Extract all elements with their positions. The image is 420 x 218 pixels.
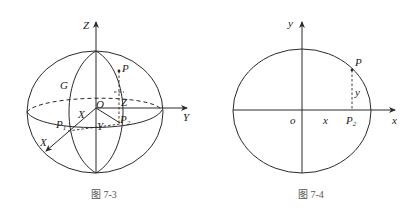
label-seg-z: Z xyxy=(121,96,128,108)
caption-fig-7-3: 图 7-3 xyxy=(91,189,117,200)
label-p2: P2 xyxy=(119,113,131,127)
label-x-axis: X xyxy=(39,136,48,148)
label-x-axis-2d: x xyxy=(391,114,397,126)
label-p1: P1 xyxy=(55,118,66,132)
label-seg-x: X xyxy=(77,108,86,120)
label-z-axis: Z xyxy=(83,19,90,31)
label-origin-2d: o xyxy=(290,114,296,126)
figure-7-4-ellipse: y x o x y P P2 图 7-4 xyxy=(233,17,397,200)
label-y-axis: Y xyxy=(183,111,191,123)
x-axis xyxy=(46,108,96,151)
label-point-g: G xyxy=(60,79,68,91)
sphere-outline xyxy=(27,51,163,173)
label-point-p: P xyxy=(121,62,129,74)
point-p-dot-2d xyxy=(351,69,354,72)
label-origin: O xyxy=(96,98,104,110)
label-seg-x-2d: x xyxy=(322,114,328,126)
label-point-p-2d: P xyxy=(354,56,362,68)
diagram-canvas: Z Y X O P G X Y Z P1 P2 图 7-3 y x o x y … xyxy=(0,0,420,218)
figure-page: Z Y X O P G X Y Z P1 P2 图 7-3 y x o x y … xyxy=(0,0,420,218)
point-p-dot xyxy=(118,70,121,73)
label-p2-2d: P2 xyxy=(345,114,357,128)
label-y-axis-2d: y xyxy=(287,17,293,29)
label-seg-y-2d: y xyxy=(354,86,360,98)
figure-7-3-sphere: Z Y X O P G X Y Z P1 P2 图 7-3 xyxy=(27,19,191,200)
caption-fig-7-4: 图 7-4 xyxy=(298,189,324,200)
equator-front xyxy=(27,110,162,128)
